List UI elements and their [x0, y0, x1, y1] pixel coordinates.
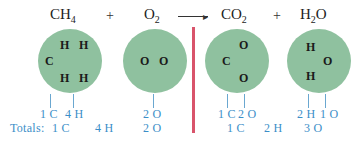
tick-h2o-o	[325, 94, 326, 108]
count-ch4-c: 1 C	[40, 107, 58, 122]
formula-o2: O2	[144, 6, 160, 25]
tick-co2-o	[244, 94, 245, 108]
molecule-ch4: H H C H H	[38, 29, 102, 93]
total-reactant-h: 4 H	[95, 121, 114, 136]
atom-o: O	[159, 54, 168, 69]
formula-h2o: H2O	[300, 6, 327, 25]
total-reactant-o: 2 O	[143, 121, 162, 136]
tick-ch4-h	[73, 94, 74, 108]
formula-ch4: CH4	[50, 6, 76, 25]
plus-sign-2: +	[273, 8, 281, 24]
atom-h: H	[306, 69, 315, 84]
atom-o: O	[239, 71, 248, 86]
plus-sign-1: +	[106, 8, 114, 24]
tick-h2o-h	[308, 94, 309, 108]
count-co2-c: 1 C	[218, 107, 236, 122]
atom-h: H	[60, 38, 69, 53]
molecule-o2: O O	[123, 29, 187, 93]
count-co2-o: 2 O	[238, 107, 257, 122]
total-product-o: 3 O	[304, 121, 323, 136]
atom-h: H	[306, 40, 315, 55]
atom-h: H	[60, 71, 69, 86]
atom-h: H	[79, 71, 88, 86]
totals-label: Totals:	[10, 121, 45, 136]
total-product-c: 1 C	[227, 121, 245, 136]
count-h2o-h: 2 H	[297, 107, 316, 122]
total-reactant-c: 1 C	[52, 121, 70, 136]
total-product-h: 2 H	[264, 121, 283, 136]
formula-co2: CO2	[221, 6, 247, 25]
count-ch4-h: 4 H	[65, 107, 84, 122]
reaction-arrow-head-icon: ▸	[203, 11, 208, 22]
molecule-h2o: H O H	[287, 29, 351, 93]
atom-o: O	[239, 38, 248, 53]
atom-c: C	[222, 54, 231, 69]
count-o2-o: 2 O	[143, 107, 162, 122]
reaction-divider	[192, 27, 195, 133]
atom-c: C	[45, 54, 54, 69]
tick-co2-c	[227, 94, 228, 108]
atom-h: H	[79, 38, 88, 53]
atom-o: O	[140, 54, 149, 69]
count-h2o-o: 1 O	[320, 107, 339, 122]
tick-o2-o	[153, 94, 154, 108]
molecule-co2: O C O	[205, 29, 269, 93]
atom-o: O	[323, 54, 332, 69]
tick-ch4-c	[50, 94, 51, 108]
